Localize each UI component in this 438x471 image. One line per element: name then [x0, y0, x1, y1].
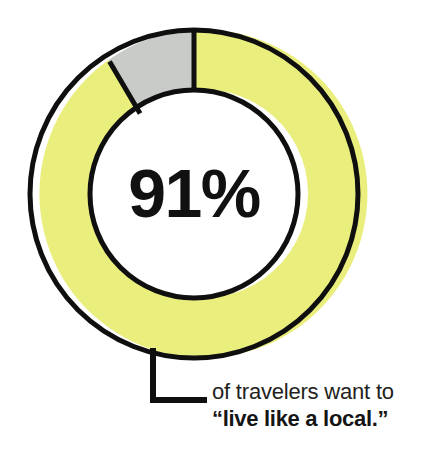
caption-line-emphasis: “live like a local.” — [212, 405, 438, 433]
infographic-figure: 91% of travelers want to “live like a lo… — [0, 0, 438, 471]
donut-inner-hole — [90, 90, 298, 298]
caption-line-primary: of travelers want to — [212, 378, 438, 405]
caption-block: of travelers want to “live like a local.… — [212, 378, 438, 433]
